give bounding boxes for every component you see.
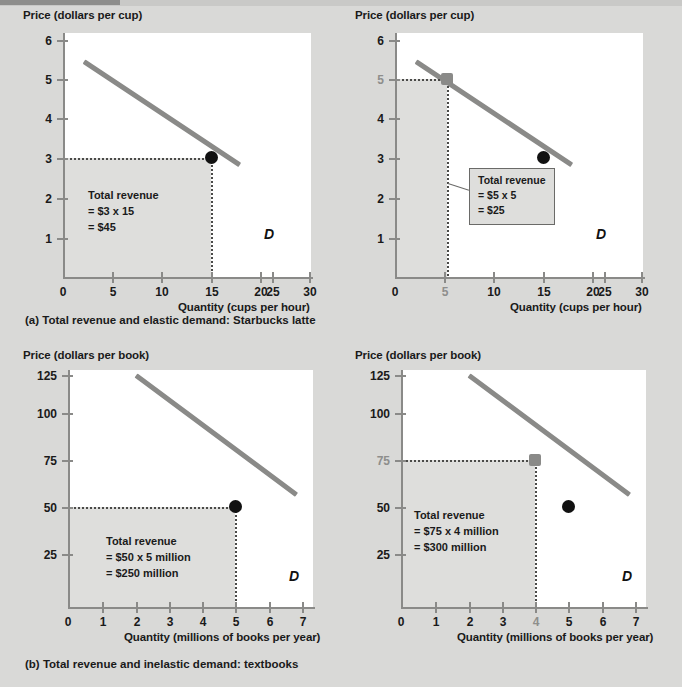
- total-revenue-note: Total revenue = $3 x 15 = $45: [88, 188, 159, 236]
- x-tick-3: [169, 602, 171, 613]
- x-tick-label-15: 15: [534, 285, 554, 299]
- x-tick-30: [309, 272, 311, 283]
- demand-curve-label: D: [264, 226, 274, 242]
- x-tick-30: [641, 272, 643, 283]
- y-axis-title: Price (dollars per cup): [23, 9, 142, 21]
- y-tick-label-6: 6: [30, 34, 52, 48]
- note-line-3: = $250 million: [106, 566, 191, 582]
- panel-b-left: Price (dollars per book) D Total revenue…: [0, 340, 341, 687]
- y-tick-label-3: 3: [30, 152, 52, 166]
- y-tick-125: [395, 375, 406, 377]
- y-tick-50: [62, 507, 73, 509]
- demand-curve-label: D: [596, 226, 606, 242]
- x-tick-25: [604, 272, 606, 283]
- y-tick-label-50: 50: [27, 501, 57, 515]
- y-tick-label-4: 4: [30, 112, 52, 126]
- note-line-3: = $45: [88, 220, 159, 236]
- x-tick-20: [592, 272, 594, 283]
- x-tick-6: [269, 602, 271, 613]
- y-tick-label-100: 100: [355, 407, 390, 421]
- figure-root: Price (dollars per cup) D Total revenue …: [0, 0, 682, 687]
- x-tick-20: [260, 272, 262, 283]
- x-tick-15: [211, 272, 213, 283]
- quantity-guide-line: [447, 79, 449, 279]
- y-tick-label-125: 125: [355, 369, 390, 383]
- note-line-2: = $50 x 5 million: [106, 550, 191, 566]
- y-tick-label-5: 5: [30, 73, 52, 87]
- x-tick-3: [502, 602, 504, 613]
- x-tick-label-1: 1: [93, 615, 113, 629]
- x-tick-15: [543, 272, 545, 283]
- demand-curve-label: D: [289, 568, 299, 584]
- y-tick-label-3: 3: [362, 152, 384, 166]
- x-tick-label-7: 7: [293, 615, 313, 629]
- total-revenue-note: Total revenue = $50 x 5 million = $250 m…: [106, 534, 191, 582]
- x-axis-line: [68, 607, 315, 609]
- y-axis-line: [68, 370, 70, 609]
- x-tick-25: [272, 272, 274, 283]
- x-tick-label-10: 10: [152, 285, 172, 299]
- quantity-guide-line: [535, 460, 537, 609]
- x-tick-label-3: 3: [493, 615, 513, 629]
- x-tick-label-25: 25: [263, 285, 283, 299]
- y-tick-75: [62, 460, 73, 462]
- x-tick-label-5: 5: [226, 615, 246, 629]
- note-line-2: = $3 x 15: [88, 204, 159, 220]
- y-tick-100: [395, 413, 406, 415]
- y-tick-1: [57, 238, 68, 240]
- note-line-1: Total revenue: [106, 534, 191, 550]
- x-tick-label-0: 0: [385, 285, 405, 299]
- x-tick-label-0: 0: [391, 615, 411, 629]
- y-tick-label-100: 100: [22, 407, 57, 421]
- x-tick-10: [493, 272, 495, 283]
- equilibrium-point: [229, 500, 242, 513]
- price-guide-line: [65, 158, 212, 160]
- x-tick-2: [469, 602, 471, 613]
- y-tick-2: [57, 198, 68, 200]
- caption-b: (b) Total revenue and inelastic demand: …: [25, 658, 298, 670]
- y-tick-2: [389, 198, 400, 200]
- panel-a-right: Price (dollars per cup) D Total revenue …: [341, 0, 682, 340]
- x-axis-line: [63, 277, 313, 279]
- x-tick-label-6: 6: [260, 615, 280, 629]
- x-tick-7: [302, 602, 304, 613]
- x-tick-2: [136, 602, 138, 613]
- y-axis-title: Price (dollars per cup): [355, 9, 474, 21]
- y-tick-125: [62, 375, 73, 377]
- y-tick-label-5: 5: [362, 73, 384, 87]
- x-axis-title: Quantity (millions of books per year): [124, 631, 320, 643]
- x-axis-title: Quantity (cups per hour): [178, 301, 310, 313]
- caption-a: (a) Total revenue and elastic demand: St…: [25, 314, 316, 326]
- x-tick-label-30: 30: [300, 285, 320, 299]
- demand-curve-label: D: [622, 568, 632, 584]
- x-tick-label-1: 1: [426, 615, 446, 629]
- highlight-point: [441, 73, 453, 85]
- total-revenue-note: Total revenue = $75 x 4 million = $300 m…: [414, 508, 499, 556]
- x-tick-5: [112, 272, 114, 283]
- y-tick-100: [62, 413, 73, 415]
- y-tick-label-75: 75: [27, 454, 57, 468]
- x-tick-label-10: 10: [484, 285, 504, 299]
- y-tick-1: [389, 238, 400, 240]
- x-tick-label-2: 2: [127, 615, 147, 629]
- equilibrium-point: [562, 500, 575, 513]
- y-tick-25: [395, 554, 406, 556]
- panel-b-right: Price (dollars per book) D Total revenue…: [341, 340, 682, 687]
- x-tick-5: [235, 602, 237, 613]
- note-line-3: = $300 million: [414, 540, 499, 556]
- x-axis-title: Quantity (millions of books per year): [457, 631, 653, 643]
- y-tick-label-25: 25: [27, 548, 57, 562]
- price-guide-line: [70, 507, 236, 509]
- y-tick-label-50: 50: [360, 501, 390, 515]
- callout-line-1: Total revenue: [478, 173, 546, 188]
- y-tick-3: [57, 158, 68, 160]
- x-tick-label-5: 5: [435, 285, 455, 299]
- y-tick-50: [395, 507, 406, 509]
- highlight-point: [529, 454, 541, 466]
- x-tick-4: [535, 602, 537, 613]
- equilibrium-point: [537, 151, 550, 164]
- x-tick-label-25: 25: [595, 285, 615, 299]
- x-tick-10: [161, 272, 163, 283]
- price-guide-line: [403, 460, 536, 462]
- x-tick-label-4: 4: [193, 615, 213, 629]
